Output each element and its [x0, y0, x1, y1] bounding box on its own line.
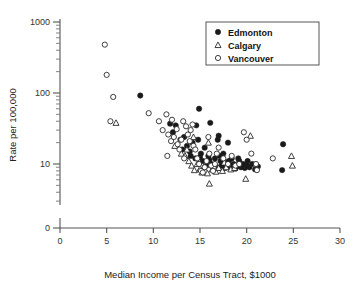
- x-tick-label: 10: [148, 236, 158, 246]
- data-point-vancouver: [216, 145, 221, 150]
- x-tick-label: 20: [242, 236, 252, 246]
- data-point-vancouver: [195, 156, 200, 161]
- x-axis-title: Median Income per Census Tract, $1000: [104, 269, 276, 280]
- y-tick-label: 100: [35, 88, 50, 98]
- data-point-edmonton: [202, 145, 207, 150]
- data-point-vancouver: [210, 168, 215, 173]
- data-point-vancouver: [254, 168, 259, 173]
- data-point-vancouver: [177, 147, 182, 152]
- chart-canvas: 1010010000 051015202530 EdmontonCalgaryV…: [0, 0, 355, 285]
- x-tick-label: 0: [57, 236, 62, 246]
- y-origin-label: 0: [45, 223, 50, 233]
- legend-label-calgary: Calgary: [228, 41, 261, 51]
- data-point-vancouver: [104, 72, 109, 77]
- data-point-vancouver: [200, 170, 205, 175]
- data-point-vancouver: [225, 161, 230, 166]
- data-point-vancouver: [207, 151, 212, 156]
- data-point-edmonton: [215, 137, 220, 142]
- data-point-vancouver: [146, 111, 151, 116]
- data-point-calgary: [205, 140, 211, 146]
- data-point-vancouver: [160, 128, 165, 133]
- data-point-vancouver: [253, 161, 258, 166]
- data-point-vancouver: [166, 132, 171, 137]
- data-point-vancouver: [202, 165, 207, 170]
- y-tick-label: 10: [40, 159, 50, 169]
- data-point-vancouver: [204, 158, 209, 163]
- x-tick-label: 5: [104, 236, 109, 246]
- data-point-vancouver: [175, 142, 180, 147]
- data-point-vancouver: [241, 130, 246, 135]
- data-point-vancouver: [165, 153, 170, 158]
- data-point-edmonton: [279, 167, 284, 172]
- legend-label-vancouver: Vancouver: [228, 54, 274, 64]
- data-point-calgary: [113, 120, 119, 126]
- data-point-vancouver: [270, 156, 275, 161]
- y-axis: 1010010000: [30, 17, 60, 233]
- data-point-vancouver: [188, 128, 193, 133]
- data-point-vancouver: [164, 112, 169, 117]
- data-point-edmonton: [196, 106, 201, 111]
- data-point-vancouver: [196, 161, 201, 166]
- data-point-vancouver: [169, 117, 174, 122]
- data-point-vancouver: [193, 147, 198, 152]
- data-point-vancouver: [206, 134, 211, 139]
- data-point-calgary: [289, 163, 295, 169]
- data-point-calgary: [243, 176, 249, 182]
- data-point-edmonton: [138, 93, 143, 98]
- data-point-vancouver: [182, 156, 187, 161]
- data-point-vancouver: [214, 151, 219, 156]
- data-point-edmonton: [245, 158, 250, 163]
- legend-marker-edmonton: [215, 29, 220, 34]
- y-tick-label: 1000: [30, 17, 50, 27]
- data-point-vancouver: [156, 119, 161, 124]
- data-point-vancouver: [183, 124, 188, 129]
- data-point-vancouver: [179, 137, 184, 142]
- data-point-calgary: [206, 181, 212, 187]
- data-point-edmonton: [280, 142, 285, 147]
- x-tick-label: 25: [288, 236, 298, 246]
- data-point-calgary: [288, 153, 294, 159]
- data-point-vancouver: [190, 122, 195, 127]
- x-axis: 051015202530: [57, 228, 345, 246]
- data-point-vancouver: [249, 151, 254, 156]
- data-point-vancouver: [237, 161, 242, 166]
- data-point-vancouver: [212, 161, 217, 166]
- data-point-edmonton: [236, 156, 241, 161]
- data-point-vancouver: [102, 42, 107, 47]
- series-edmonton: [138, 93, 286, 173]
- data-point-vancouver: [229, 153, 234, 158]
- data-point-vancouver: [181, 119, 186, 124]
- x-tick-label: 15: [195, 236, 205, 246]
- scatter-plot-figure: 1010010000 051015202530 EdmontonCalgaryV…: [0, 0, 355, 285]
- data-point-vancouver: [244, 137, 249, 142]
- legend-marker-vancouver: [215, 55, 220, 60]
- legend-label-edmonton: Edmonton: [228, 28, 273, 38]
- data-point-edmonton: [208, 120, 213, 125]
- data-point-vancouver: [221, 156, 226, 161]
- data-point-vancouver: [174, 127, 179, 132]
- data-point-edmonton: [225, 140, 230, 145]
- data-point-vancouver: [108, 119, 113, 124]
- x-tick-label: 30: [335, 236, 345, 246]
- series-calgary: [113, 120, 295, 186]
- data-point-vancouver: [171, 134, 176, 139]
- chart-legend: EdmontonCalgaryVancouver: [206, 22, 319, 65]
- data-point-vancouver: [187, 139, 192, 144]
- data-point-vancouver: [111, 94, 116, 99]
- y-axis-title: Rate per 100,000: [7, 88, 18, 161]
